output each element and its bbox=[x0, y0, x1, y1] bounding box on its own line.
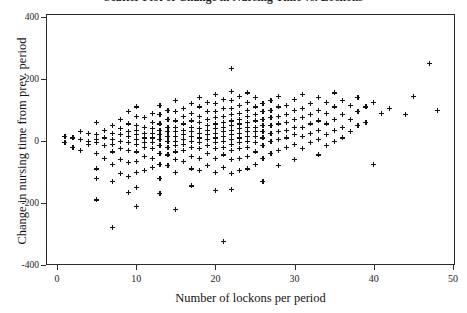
y-axis-title: Change in nursing time from prev. period bbox=[15, 11, 29, 271]
x-axis-tick-label: 40 bbox=[359, 273, 389, 284]
x-axis-tick-label: 10 bbox=[121, 273, 151, 284]
y-axis-tick bbox=[41, 141, 46, 142]
x-axis-title: Number of lockons per period bbox=[46, 291, 455, 305]
x-axis-tick-label: 20 bbox=[200, 273, 230, 284]
scatter-plot-figure: Scatter Plot of Change in Nursing Time v… bbox=[0, 0, 467, 313]
y-axis-tick bbox=[41, 79, 46, 80]
x-axis-tick bbox=[295, 265, 296, 270]
plot-area-frame bbox=[46, 14, 455, 265]
x-axis-tick-label: 0 bbox=[42, 273, 72, 284]
y-axis-tick bbox=[41, 17, 46, 18]
chart-title-clipped: Scatter Plot of Change in Nursing Time v… bbox=[0, 0, 467, 9]
x-axis-tick-label: 30 bbox=[280, 273, 310, 284]
chart-title: Scatter Plot of Change in Nursing Time v… bbox=[0, 0, 467, 3]
y-axis-tick bbox=[41, 265, 46, 266]
x-axis-tick bbox=[136, 265, 137, 270]
x-axis-tick bbox=[57, 265, 58, 270]
y-axis-tick bbox=[41, 203, 46, 204]
x-axis-tick bbox=[374, 265, 375, 270]
x-axis-tick bbox=[453, 265, 454, 270]
x-axis-tick-label: 50 bbox=[438, 273, 467, 284]
x-axis-tick bbox=[215, 265, 216, 270]
